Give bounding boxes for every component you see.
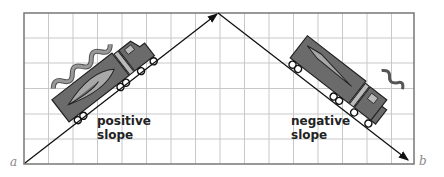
negative-slope-label-line2: slope bbox=[291, 128, 350, 142]
positive-slope-label: positive slope bbox=[97, 114, 151, 142]
point-a-label: a bbox=[10, 155, 17, 169]
positive-slope-label-line1: positive bbox=[97, 114, 151, 128]
negative-slope-label: negative slope bbox=[291, 114, 350, 142]
positive-slope-label-line2: slope bbox=[97, 128, 151, 142]
truck-left-icon bbox=[45, 24, 159, 128]
slope-diagram bbox=[0, 0, 444, 177]
point-b-label: b bbox=[419, 154, 427, 168]
negative-slope-label-line1: negative bbox=[291, 114, 350, 128]
